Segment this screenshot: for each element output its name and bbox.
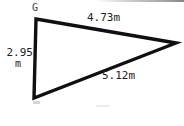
diagram-canvas: G 4.73m 5.12m 2.95 m: [0, 0, 184, 126]
side-length-label-left-unit: m: [3, 59, 33, 69]
scan-artifact-smudge-a: [33, 101, 40, 104]
triangle-outline: [34, 19, 176, 98]
vertex-label-g: G: [32, 3, 38, 13]
side-length-label-top: 4.73m: [87, 12, 120, 23]
scan-artifact-smudge-b: [96, 105, 110, 107]
side-length-label-bottom: 5.12m: [102, 70, 135, 81]
side-length-label-left-value: 2.95: [3, 47, 33, 58]
